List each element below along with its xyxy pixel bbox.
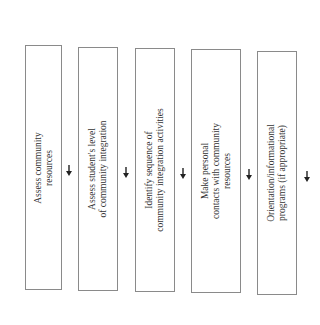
step-box-make-contacts: Make personal contacts with community re…	[191, 49, 241, 293]
step-label: Orientation/informational programs (if a…	[266, 58, 288, 288]
step-label: Assess community resources	[33, 53, 55, 283]
step-box-orientation-programs: Orientation/informational programs (if a…	[257, 51, 297, 295]
arrow-icon	[244, 169, 254, 181]
step-label: Assess student's level of community inte…	[87, 54, 109, 284]
step-label: Make personal contacts with community re…	[200, 56, 233, 286]
step-label: Identify sequence of community integrati…	[144, 55, 166, 285]
arrow-icon	[302, 171, 312, 183]
arrow-icon	[121, 167, 131, 179]
step-box-identify-sequence: Identify sequence of community integrati…	[135, 48, 175, 292]
step-box-assess-student-level: Assess student's level of community inte…	[78, 47, 118, 291]
arrow-icon	[178, 168, 188, 180]
step-box-assess-resources: Assess community resources	[25, 45, 62, 290]
arrow-icon	[64, 165, 74, 177]
